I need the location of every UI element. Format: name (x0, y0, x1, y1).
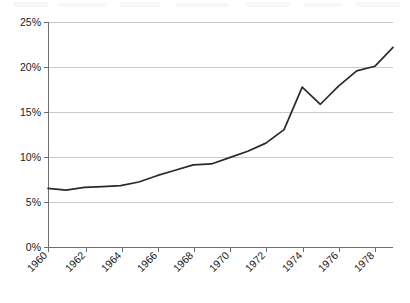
data-series-line (48, 47, 393, 190)
x-axis-label-1976: 1976 (315, 249, 340, 274)
x-axis-label-1978: 1978 (351, 249, 376, 274)
line-chart: 25% 20% 15% 10% 5% 0% 1960 1962 1964 196… (0, 0, 410, 303)
gridlines (48, 23, 393, 203)
y-axis-label-15: 15% (20, 106, 41, 118)
y-axis-label-25: 25% (20, 16, 41, 28)
scan-artifact (14, 2, 400, 7)
x-axis-label-1964: 1964 (98, 249, 123, 274)
x-axis-label-1974: 1974 (279, 249, 304, 274)
x-axis-label-1970: 1970 (206, 249, 231, 274)
y-axis-label-10: 10% (20, 151, 41, 163)
x-axis-label-1972: 1972 (242, 249, 267, 274)
x-axis-ticks (49, 248, 376, 252)
axis-lines (48, 22, 393, 248)
y-axis-label-20: 20% (20, 61, 41, 73)
x-axis-label-1962: 1962 (62, 249, 87, 274)
y-axis-label-5: 5% (26, 196, 41, 208)
y-axis-ticks (44, 23, 48, 248)
x-axis-labels: 1960 1962 1964 1966 1968 1970 1972 1974 … (24, 249, 376, 274)
y-axis-labels: 25% 20% 15% 10% 5% 0% (20, 16, 41, 253)
x-axis-label-1968: 1968 (170, 249, 195, 274)
chart-canvas: 25% 20% 15% 10% 5% 0% 1960 1962 1964 196… (0, 0, 410, 303)
x-axis-label-1966: 1966 (134, 249, 159, 274)
